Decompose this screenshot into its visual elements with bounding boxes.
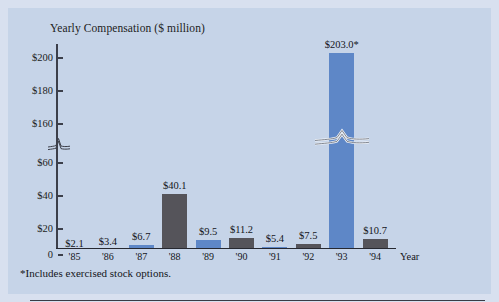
bar [196,240,221,248]
y-tick-label: $160 [8,118,53,130]
y-tick-label-text: $180 [32,85,53,96]
bar-value-label: $40.1 [145,180,205,191]
y-tick-label: $200 [8,52,53,64]
y-tick-label: $20 [8,223,53,235]
y-tick-label-text: $200 [32,52,53,63]
bar [329,53,354,248]
y-tick-label: 0 [8,249,53,261]
y-tick-label-text: $60 [37,157,53,168]
chart-title: Yearly Compensation ($ million) [50,22,205,34]
bar-value-label: $6.7 [111,231,171,242]
y-tick-label-text: $40 [37,190,53,201]
bar-value-label: $7.5 [278,230,338,241]
bar-value-label: $203.0* [312,39,372,50]
x-axis-title: Year [400,251,419,262]
y-tick-label: $60 [8,157,53,169]
bar [363,239,388,248]
chart-panel: Yearly Compensation ($ million) $200$180… [8,8,491,294]
chart-footnote: *Includes exercised stock options. [20,267,171,279]
bar-break-icon [314,128,370,150]
x-tick-label: '94 [355,251,395,262]
y-tick-label: $40 [8,190,53,202]
y-tick-label-text: $160 [32,118,53,129]
bar-value-label: $10.7 [345,225,405,236]
y-tick-label-text: 0 [48,249,53,260]
bar [296,244,321,249]
y-tick-label-text: $20 [37,223,53,234]
y-tick-label: $180 [8,85,53,97]
bar [262,247,287,248]
figure-page: Yearly Compensation ($ million) $200$180… [0,0,499,302]
plot-area: Yearly Compensation ($ million) $200$180… [8,8,491,294]
horizontal-rule [30,300,485,301]
